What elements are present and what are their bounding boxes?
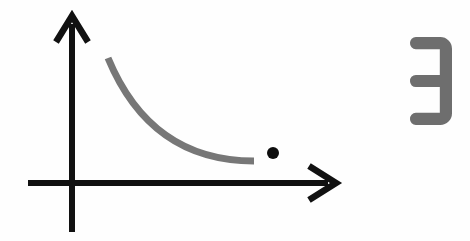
data-point-dot (267, 147, 279, 159)
diagram-svg (0, 0, 470, 241)
figure-canvas: Decaying curve with axes, isolated point… (0, 0, 470, 241)
